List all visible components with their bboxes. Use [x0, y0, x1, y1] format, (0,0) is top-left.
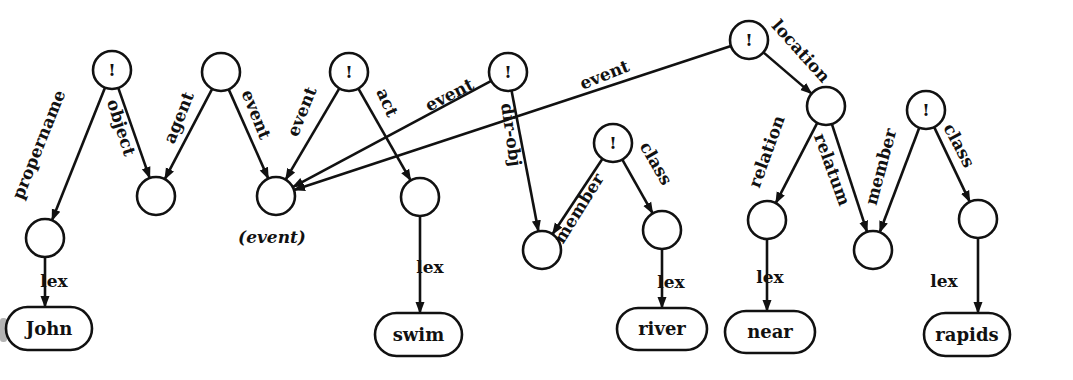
edge-label-lex: lex	[756, 267, 784, 287]
edge-label-relation: relation	[744, 113, 789, 191]
assertion-mark-icon: !	[108, 60, 115, 80]
edge-label-lex: lex	[930, 271, 958, 291]
edge-label-agent: agent	[159, 89, 198, 147]
concept-node	[26, 219, 64, 257]
edge-label-event: event	[422, 74, 477, 115]
assertion-mark-icon: !	[745, 30, 752, 50]
edge-label-lex: lex	[416, 257, 444, 277]
assertion-mark-icon: !	[609, 133, 616, 153]
lex-box-river: river	[617, 308, 707, 350]
assertion-mark-icon: !	[345, 62, 352, 82]
assertion-node: !	[907, 91, 945, 129]
assertion-node: !	[594, 124, 632, 162]
edge-label-lex: lex	[657, 272, 685, 292]
edge-label-act: act	[372, 85, 402, 120]
assertion-mark-icon: !	[922, 100, 929, 120]
assertion-node: !	[93, 51, 131, 89]
concept-node	[854, 231, 892, 269]
lex-box-near: near	[725, 311, 815, 353]
edge-label-object: object	[103, 97, 140, 159]
edge-label-dir-obj: dir-obj	[497, 102, 526, 168]
node-caption: (event)	[238, 227, 306, 247]
lex-word: near	[747, 321, 793, 342]
lex-word: rapids	[935, 324, 998, 345]
edge-label-class: class	[939, 120, 979, 171]
labels-layer: propernameobjectagenteventeventactevente…	[8, 16, 980, 292]
lex-box-john: John	[6, 307, 92, 350]
concept-node	[959, 200, 997, 238]
assertion-mark-icon: !	[504, 62, 511, 82]
lex-box-rapids: rapids	[924, 313, 1010, 356]
semantic-network-diagram: !!!!(event)!! Johnswimrivernearrapids pr…	[0, 0, 1073, 380]
edge-label-propername: propername	[8, 87, 70, 202]
assertion-node: !	[330, 53, 368, 91]
assertion-node: !	[489, 53, 527, 91]
lex-word: John	[24, 318, 73, 339]
assertion-node: !	[730, 21, 768, 59]
edge-label-lex: lex	[40, 271, 68, 291]
concept-node	[137, 177, 175, 215]
edge-label-event: event	[237, 87, 275, 143]
edge-label-location: location	[768, 16, 835, 87]
edge-label-class: class	[636, 138, 677, 189]
concept-node: (event)	[238, 177, 306, 247]
concept-node	[748, 201, 786, 239]
lex-layer: Johnswimrivernearrapids	[6, 307, 1010, 356]
lex-word: river	[638, 318, 686, 339]
edge-label-member: member	[549, 169, 608, 247]
concept-node	[643, 211, 681, 249]
concept-node	[807, 87, 845, 125]
lex-word: swim	[393, 324, 445, 345]
concept-node	[202, 53, 240, 91]
lex-box-swim: swim	[375, 313, 462, 356]
concept-node	[401, 178, 439, 216]
